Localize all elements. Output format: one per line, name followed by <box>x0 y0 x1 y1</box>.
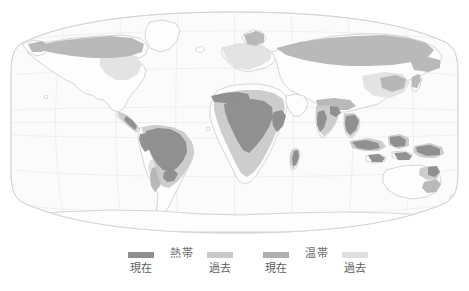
legend-group-tropical: 熱帯 現在 過去 <box>118 246 243 291</box>
legend-label-row-temperate: 現在 過去 <box>253 261 378 281</box>
legend-label-tropical-present: 現在 <box>117 261 165 276</box>
legend-swatch-row-temperate: 温帯 <box>253 251 378 260</box>
legend-group-temperate: 温帯 現在 過去 <box>253 246 378 291</box>
legend-swatch-row-tropical: 熱帯 <box>118 251 243 260</box>
legend-zone-label-temperate: 温帯 <box>293 247 341 260</box>
legend-swatch-tropical-present <box>128 252 154 258</box>
world-map-figure: 熱帯 現在 過去 温帯 現在 過去 <box>0 0 469 291</box>
legend-swatch-temperate-present <box>263 252 289 258</box>
world-map-svg <box>0 0 469 245</box>
map-canvas <box>0 0 469 245</box>
legend-label-row-tropical: 現在 過去 <box>118 261 243 281</box>
legend-label-temperate-past: 過去 <box>331 261 379 276</box>
legend-zone-label-tropical: 熱帯 <box>158 247 206 260</box>
legend-label-temperate-present: 現在 <box>252 261 300 276</box>
legend-label-tropical-past: 過去 <box>196 261 244 276</box>
legend-swatch-temperate-past <box>342 252 368 258</box>
map-legend: 熱帯 現在 過去 温帯 現在 過去 <box>0 246 469 291</box>
legend-swatch-tropical-past <box>207 252 233 258</box>
